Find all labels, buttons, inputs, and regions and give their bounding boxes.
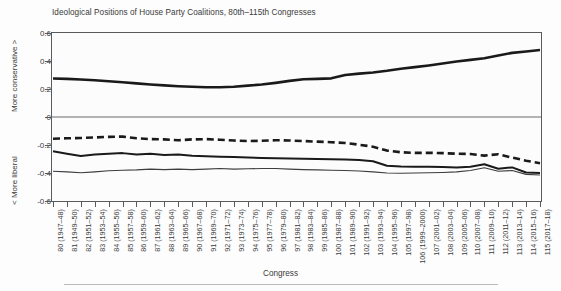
x-axis-tick-label: 98 (1983–84) [306, 209, 315, 252]
x-axis-tick-mark [276, 202, 277, 207]
x-axis-tick-label: 96 (1979–80) [279, 209, 288, 252]
x-axis-tick-mark [540, 202, 541, 207]
x-axis-tick-mark [387, 202, 388, 207]
x-axis-tick-label: 103 (1993–94) [376, 209, 385, 256]
x-axis-tick-label: 99 (1985–86) [320, 209, 329, 252]
x-axis-tick-mark [484, 202, 485, 207]
x-axis-tick-mark [457, 202, 458, 207]
x-axis-tick-mark [248, 202, 249, 207]
x-axis-tick-mark [317, 202, 318, 207]
x-axis-tick-label: 81 (1949–50) [70, 209, 79, 252]
x-axis-tick-label: 112 (2011–12) [501, 209, 510, 255]
x-axis-tick-mark [443, 202, 444, 207]
x-axis-tick-label: 115 (2017–18) [543, 209, 552, 255]
x-axis-tick-mark [109, 202, 110, 207]
x-axis-tick-label: 84 (1955–56) [112, 209, 121, 252]
x-axis-tick-label: 105 (1997–98) [404, 209, 413, 256]
x-axis-tick-label: 82 (1951–52) [84, 209, 93, 252]
x-axis-tick-mark [220, 202, 221, 207]
x-axis-tick-label: 113 (2013–14) [515, 209, 524, 255]
x-axis-tick-label: 108 (2003–04) [446, 209, 455, 256]
footer-divider [64, 284, 498, 285]
x-axis-tick-mark [53, 202, 54, 207]
x-axis-tick-mark [331, 202, 332, 207]
x-axis-tick-label: 101 (1989–90) [348, 209, 357, 256]
y-axis-label-conservative: More conservative > [10, 40, 19, 112]
plot-area [51, 32, 542, 202]
x-axis-tick-mark [164, 202, 165, 207]
x-axis-tick-label: 86 (1959–60) [139, 209, 148, 252]
x-axis-tick-label: 91 (1969–70) [209, 209, 218, 252]
x-axis-tick-mark [206, 202, 207, 207]
x-axis-tick-mark [512, 202, 513, 207]
x-axis-title: Congress [0, 269, 561, 278]
x-axis-tick-label: 92 (1971–72) [223, 209, 232, 252]
x-axis-tick-mark [470, 202, 471, 207]
x-axis-tick-mark [373, 202, 374, 207]
y-axis: More conservative > < More liberal 0.60.… [0, 0, 51, 291]
x-axis-tick-mark [345, 202, 346, 207]
series-line-republicans [53, 50, 540, 87]
chart-title: Ideological Positions of House Party Coa… [52, 8, 316, 17]
x-axis-tick-mark [123, 202, 124, 207]
x-axis-tick-mark [290, 202, 291, 207]
series-line-southern-democrats [53, 168, 540, 175]
x-axis-tick-label: 95 (1977–78) [265, 209, 274, 252]
x-axis-tick-mark [150, 202, 151, 207]
x-axis-tick-label: 83 (1953–54) [98, 209, 107, 252]
x-axis-tick-label: 109 (2005–06) [460, 209, 469, 256]
x-axis-tick-mark [136, 202, 137, 207]
x-axis-tick-label: 94 (1975–76) [251, 209, 260, 252]
x-axis-tick-label: 110 (2007–08) [473, 209, 482, 255]
x-axis-tick-mark [498, 202, 499, 207]
x-axis-tick-label: 102 (1991–92) [362, 209, 371, 256]
x-axis-tick-label: 89 (1965–66) [181, 209, 190, 252]
x-axis-tick-label: 104 (1995–96) [390, 209, 399, 256]
x-axis-tick-label: 106 (1999–2000) [418, 209, 427, 264]
x-axis-tick-mark [192, 202, 193, 207]
x-axis-tick-label: 85 (1957–58) [126, 209, 135, 252]
x-axis-tick-mark [67, 202, 68, 207]
y-axis-label-liberal: < More liberal [10, 156, 19, 205]
x-axis-tick-mark [401, 202, 402, 207]
x-axis-tick-mark [303, 202, 304, 207]
x-axis-tick-label: 80 (1947–48) [56, 209, 65, 252]
x-axis-tick-mark [429, 202, 430, 207]
x-axis-tick-label: 93 (1973–74) [237, 209, 246, 252]
x-axis-tick-label: 111 (2009–10) [487, 209, 496, 255]
x-axis-tick-label: 107 (2001–02) [432, 209, 441, 256]
x-axis-tick-mark [415, 202, 416, 207]
chart-page: Ideological Positions of House Party Coa… [0, 0, 561, 291]
x-axis-tick-mark [359, 202, 360, 207]
x-axis-tick-mark [234, 202, 235, 207]
x-axis-tick-label: 90 (1967–68) [195, 209, 204, 252]
x-axis-tick-label: 87 (1961–62) [153, 209, 162, 252]
x-axis-tick-label: 88 (1963–64) [167, 209, 176, 252]
x-axis-tick-label: 100 (1987–88) [334, 209, 343, 256]
x-axis-tick-label: 97 (1981–82) [293, 209, 302, 252]
x-axis-tick-mark [262, 202, 263, 207]
x-axis-tick-mark [178, 202, 179, 207]
x-axis-tick-mark [81, 202, 82, 207]
series-canvas [52, 33, 541, 201]
x-axis-tick-label: 114 (2015–16) [529, 209, 538, 255]
x-axis-tick-mark [95, 202, 96, 207]
x-axis-tick-mark [526, 202, 527, 207]
